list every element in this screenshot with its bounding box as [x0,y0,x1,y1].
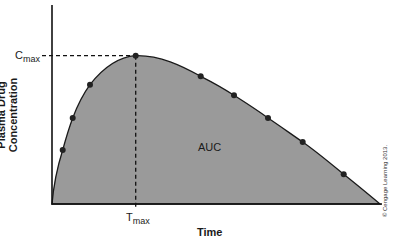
y-axis-label-line1: Plasma Drug [0,70,7,160]
tmax-sub: max [133,216,150,226]
cmax-label: Cmax [15,49,40,61]
tmax-main: T [126,211,133,223]
cmax-main: C [15,49,23,61]
y-axis-label: Plasma Drug Concentration [0,70,19,160]
tmax-label: Tmax [126,211,150,223]
x-axis-label: Time [197,226,222,238]
auc-label: AUC [198,141,221,153]
auc-area [52,56,380,204]
pk-curve-chart [0,0,395,244]
copyright-notice: © Cengage Learning 2013. [382,121,388,241]
y-axis-label-line2: Concentration [7,70,19,160]
cmax-sub: max [23,54,40,64]
